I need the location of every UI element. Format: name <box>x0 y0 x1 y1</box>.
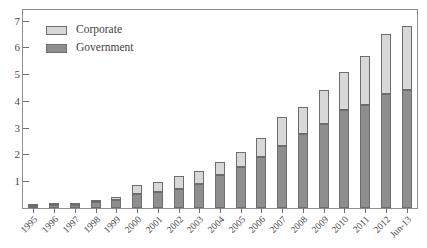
bar-group <box>402 26 412 208</box>
bar-segment-government <box>256 157 266 208</box>
legend-item: Government <box>46 40 133 56</box>
chart-legend: CorporateGovernment <box>46 22 133 58</box>
bar-group <box>215 162 225 208</box>
x-axis-tick <box>75 208 76 213</box>
bar-segment-corporate <box>49 203 59 205</box>
bar-group <box>91 200 101 208</box>
bar-segment-corporate <box>236 152 246 168</box>
legend-swatch-gov <box>46 44 67 53</box>
y-axis-tick <box>23 128 29 129</box>
y-axis-tick-label: 1 <box>15 176 21 187</box>
y-axis-tick-label: 3 <box>15 122 21 133</box>
x-axis-tick <box>282 208 283 213</box>
legend-swatch-corp <box>46 26 67 35</box>
x-axis-tick <box>407 208 408 213</box>
y-axis-tick <box>23 154 29 155</box>
y-axis-tick <box>23 47 29 48</box>
bar-segment-corporate <box>277 117 287 146</box>
x-axis-tick <box>33 208 34 213</box>
x-axis-tick <box>365 208 366 213</box>
bar-segment-corporate <box>28 204 38 206</box>
x-axis-tick <box>96 208 97 213</box>
bar-segment-corporate <box>111 197 121 200</box>
bar-segment-corporate <box>194 171 204 184</box>
bar-group <box>319 90 329 208</box>
y-axis-tick-label: 2 <box>15 149 21 160</box>
bar-group <box>111 197 121 209</box>
y-axis-tick-label: 7 <box>15 15 21 26</box>
bar-segment-corporate <box>215 162 225 175</box>
x-axis-tick <box>137 208 138 213</box>
bar-segment-government <box>381 94 391 208</box>
bar-segment-corporate <box>360 56 370 106</box>
legend-label: Corporate <box>76 24 122 36</box>
x-axis-tick <box>54 208 55 213</box>
y-axis-tick <box>23 74 29 75</box>
bar-segment-government <box>339 110 349 208</box>
x-axis-tick <box>116 208 117 213</box>
bar-group <box>381 34 391 208</box>
bar-segment-corporate <box>174 176 184 188</box>
bar-group <box>236 152 246 208</box>
bar-segment-government <box>132 194 142 208</box>
x-axis-tick <box>199 208 200 213</box>
bar-group <box>360 56 370 209</box>
bar-segment-corporate <box>256 138 266 157</box>
x-axis-tick <box>324 208 325 213</box>
bar-group <box>256 138 266 208</box>
x-axis-tick <box>386 208 387 213</box>
legend-item: Corporate <box>46 22 133 38</box>
x-axis-tick <box>179 208 180 213</box>
x-axis-tick <box>241 208 242 213</box>
bar-group <box>132 185 142 208</box>
bar-segment-government <box>360 105 370 208</box>
y-axis-tick <box>23 181 29 182</box>
bar-segment-government <box>402 90 412 208</box>
x-axis-tick <box>261 208 262 213</box>
y-axis-tick-label: 5 <box>15 69 21 80</box>
bar-group <box>277 117 287 208</box>
bar-segment-government <box>319 124 329 208</box>
bar-segment-corporate <box>298 107 308 135</box>
y-axis-tick <box>23 21 29 22</box>
bar-segment-corporate <box>339 72 349 111</box>
x-axis-tick <box>344 208 345 213</box>
y-axis-tick-label: 6 <box>15 42 21 53</box>
bar-group <box>298 107 308 208</box>
y-axis-tick <box>23 101 29 102</box>
bar-segment-corporate <box>402 26 412 90</box>
bar-segment-corporate <box>381 34 391 94</box>
bar-segment-corporate <box>319 90 329 123</box>
bar-segment-government <box>215 175 225 208</box>
y-axis-tick-label: 4 <box>15 95 21 106</box>
stacked-bar-chart: 1234567 19951996199719981999200020012002… <box>0 0 427 248</box>
x-axis-tick <box>220 208 221 213</box>
bar-segment-corporate <box>132 185 142 194</box>
bar-group <box>174 176 184 208</box>
bar-segment-government <box>174 189 184 208</box>
bar-segment-government <box>236 167 246 208</box>
bar-group <box>194 171 204 208</box>
bar-segment-corporate <box>153 182 163 192</box>
bar-segment-government <box>194 184 204 208</box>
bar-group <box>153 182 163 208</box>
bar-group <box>339 72 349 208</box>
bar-segment-government <box>298 134 308 208</box>
bar-segment-government <box>277 146 287 208</box>
x-axis-tick <box>158 208 159 213</box>
bar-segment-government <box>111 200 121 208</box>
x-axis-tick <box>303 208 304 213</box>
bar-segment-government <box>153 192 163 208</box>
legend-label: Government <box>76 42 133 54</box>
bar-segment-corporate <box>70 203 80 205</box>
bar-segment-corporate <box>91 200 101 202</box>
